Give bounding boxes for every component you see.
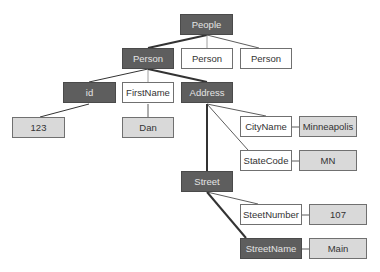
- node-statecode: StateCode: [240, 150, 292, 171]
- node-street: Street: [181, 171, 233, 192]
- node-streetname: StreetName: [240, 238, 302, 259]
- node-statecode-value: MN: [299, 150, 357, 171]
- node-address: Address: [181, 82, 233, 103]
- node-cityname: CityName: [240, 116, 292, 137]
- node-person-2: Person: [181, 48, 233, 69]
- node-person-1: Person: [122, 48, 174, 69]
- node-id: id: [63, 82, 116, 103]
- node-streetname-value: Main: [309, 238, 367, 259]
- node-id-value: 123: [12, 117, 65, 138]
- node-cityname-value: Minneapolis: [299, 116, 357, 137]
- node-streetnumber: SteetNumber: [240, 204, 302, 225]
- node-firstname-value: Dan: [122, 117, 174, 138]
- node-streetnumber-value: 107: [309, 204, 367, 225]
- node-people: People: [180, 14, 233, 35]
- node-firstname: FirstName: [122, 82, 174, 103]
- node-person-3: Person: [240, 48, 292, 69]
- xml-tree-diagram: People Person Person Person id FirstName…: [0, 0, 380, 272]
